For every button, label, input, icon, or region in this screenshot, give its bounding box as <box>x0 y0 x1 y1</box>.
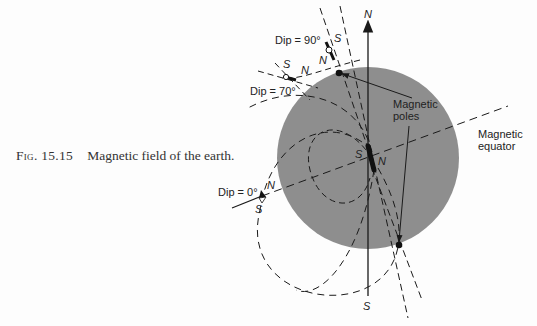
dip-70-label: Dip = 70° <box>250 85 296 97</box>
magnetic-poles-label-1: Magnetic <box>393 98 438 110</box>
magnet-s-label: S <box>355 148 363 160</box>
dip-0-label: Dip = 0° <box>218 186 258 198</box>
magnetic-pole-south-dot <box>396 242 403 249</box>
geographic-south-label: S <box>363 300 371 312</box>
dip-90-label: Dip = 90° <box>275 34 321 46</box>
compass-90-n-label: N <box>319 54 327 66</box>
magnetic-field-figure: N S S N Magnetic poles Magnetic equator <box>0 0 537 326</box>
compass-70-n-label: N <box>301 64 309 76</box>
figure-caption-text: Magnetic field of the earth. <box>87 148 234 163</box>
compass-0-n-label: N <box>267 179 275 191</box>
magnetic-equator-label-1: Magnetic <box>478 128 523 140</box>
magnetic-poles-label-2: poles <box>393 110 420 122</box>
compass-90-s-label: S <box>334 32 342 44</box>
compass-0-s-label: S <box>255 203 263 215</box>
figure-caption: Fig. 15.15Magnetic field of the earth. <box>16 148 234 164</box>
magnet-n-label: N <box>378 155 386 167</box>
figure-number: Fig. 15.15 <box>16 148 73 163</box>
compass-dip-70 <box>283 74 296 80</box>
geographic-north-label: N <box>364 8 372 20</box>
magnetic-equator-label-2: equator <box>478 140 516 152</box>
compass-dip-0 <box>259 190 266 203</box>
magnetic-pole-north-dot <box>336 70 343 77</box>
compass-70-s-label: S <box>283 58 291 70</box>
